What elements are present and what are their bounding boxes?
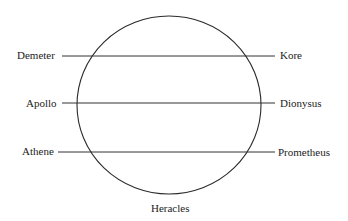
label-heracles: Heracles (151, 202, 189, 214)
label-demeter: Demeter (17, 49, 55, 61)
label-prometheus: Prometheus (278, 146, 330, 158)
label-athene: Athene (22, 145, 54, 157)
central-circle (77, 16, 261, 194)
label-kore: Kore (280, 49, 302, 61)
label-apollo: Apollo (26, 97, 57, 109)
diagram-canvas (0, 0, 348, 221)
label-dionysus: Dionysus (280, 97, 322, 109)
